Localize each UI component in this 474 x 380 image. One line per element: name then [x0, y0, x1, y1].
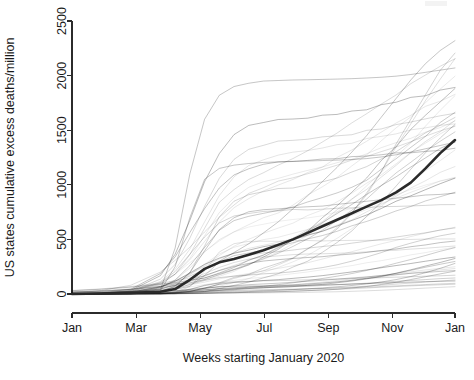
state-line [72, 112, 455, 294]
x-tick-label: Nov [381, 321, 404, 335]
y-tick-label: 1500 [55, 116, 69, 144]
x-tick-label: Mar [125, 321, 147, 335]
y-tick-label: 2500 [55, 7, 69, 35]
x-tick-label: Sep [317, 321, 339, 335]
state-line [72, 76, 455, 291]
state-line [72, 148, 455, 293]
x-axis: JanMarMayJulSepNovJan [62, 313, 465, 335]
state-line [72, 193, 455, 294]
y-tick-label: 1000 [55, 171, 69, 199]
y-tick-label: 0 [55, 290, 69, 297]
y-tick-label: 2000 [55, 62, 69, 90]
chart-figure: 05001000150020002500 JanMarMayJulSepNovJ… [0, 0, 474, 380]
state-line [72, 132, 455, 294]
x-tick-label: Jul [256, 321, 272, 335]
state-line [72, 124, 455, 294]
x-tick-label: Jan [445, 321, 465, 335]
y-tick-label: 500 [55, 229, 69, 250]
y-axis-title: US states cumulative excess deaths/milli… [3, 38, 17, 278]
state-line [72, 117, 455, 294]
x-axis-title: Weeks starting January 2020 [183, 351, 345, 365]
y-axis: 05001000150020002500 [55, 7, 72, 297]
x-tick-label: May [188, 321, 212, 335]
state-line [72, 233, 455, 294]
state-line [72, 113, 455, 294]
axis-titles: US states cumulative excess deaths/milli… [3, 38, 344, 365]
state-line [72, 96, 455, 292]
x-tick-label: Jan [62, 321, 82, 335]
state-line [72, 177, 455, 293]
state-line-outlier-high-spring-2 [72, 142, 455, 294]
state-line [72, 120, 455, 290]
state-line-highest-year-end [72, 41, 455, 294]
series-lines [72, 41, 455, 294]
state-line [72, 257, 455, 294]
state-line [72, 259, 455, 294]
excess-deaths-line-chart: 05001000150020002500 JanMarMayJulSepNovJ… [0, 0, 474, 380]
